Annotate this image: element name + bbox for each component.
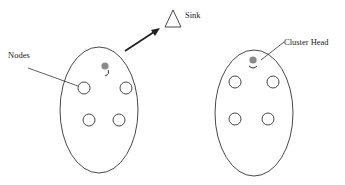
sensor-node bbox=[262, 113, 274, 125]
sensor-node bbox=[229, 76, 241, 88]
cluster-boundary bbox=[215, 50, 293, 176]
sensor-node bbox=[229, 113, 241, 125]
sink-triangle-icon bbox=[165, 10, 181, 27]
cluster-head-label: Cluster Head bbox=[284, 37, 329, 47]
cluster-right: Cluster Head bbox=[215, 37, 329, 176]
arrow-shaft bbox=[125, 32, 154, 51]
sink: Sink bbox=[165, 10, 201, 27]
signal-arc-icon bbox=[105, 70, 109, 76]
sensor-node bbox=[120, 82, 132, 94]
cluster-diagram: Nodes Sink Cluster Head bbox=[0, 0, 345, 185]
arrow-head-icon bbox=[151, 28, 160, 36]
sensor-node bbox=[267, 76, 279, 88]
sink-label: Sink bbox=[185, 10, 201, 20]
cluster-left: Nodes bbox=[8, 47, 138, 173]
signal-arc-icon bbox=[249, 66, 257, 68]
sensor-node bbox=[78, 82, 90, 94]
arrow-to-sink bbox=[125, 28, 160, 51]
nodes-label: Nodes bbox=[8, 50, 30, 60]
cluster-boundary bbox=[60, 47, 138, 173]
cluster-head-node bbox=[101, 62, 108, 69]
cluster-head-node bbox=[249, 56, 256, 63]
sensor-node bbox=[113, 114, 125, 126]
sensor-node bbox=[83, 114, 95, 126]
nodes-pointer-line bbox=[28, 68, 78, 86]
